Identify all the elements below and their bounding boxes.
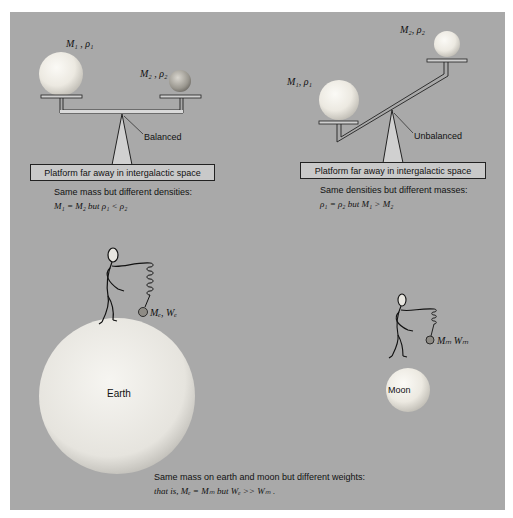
fulcrum-right <box>383 110 403 163</box>
mass-earth <box>139 308 148 317</box>
label-moon-weight: Mₘ Wₘ <box>437 335 468 346</box>
label-m2-left: M₂ , ρ₂ <box>140 68 168 79</box>
stick-figure-moon <box>389 294 434 358</box>
pointer-label-unbalanced: Unbalanced <box>414 131 462 141</box>
platform-right: Platform far away in intergalactic space <box>300 162 486 179</box>
mass-moon <box>426 336 434 344</box>
label-m1-left: M₁ , ρ₁ <box>66 38 94 49</box>
left-balance <box>39 52 201 165</box>
label-moon: Moon <box>388 385 411 395</box>
spring-moon <box>431 309 436 336</box>
label-m2-right: M₂, ρ₂ <box>400 24 425 35</box>
label-earth-weight: Mₑ, Wₑ <box>150 307 177 318</box>
caption-left-line2: M₁ = M₂ but ρ₁ < ρ₂ <box>54 199 127 213</box>
sphere-m1-right <box>319 80 359 120</box>
bottom-caption-line2: that is, Mₑ = Mₘ but Wₑ >> Wₘ . <box>154 484 275 498</box>
diagram-graphics <box>0 0 513 518</box>
caption-right-line1: Same densities but different masses: <box>320 183 467 197</box>
spring-earth <box>145 263 153 307</box>
bottom-caption-line1: Same mass on earth and moon but differen… <box>154 470 365 484</box>
label-m1-right: M₁, ρ₁ <box>287 76 312 87</box>
fulcrum-left <box>112 114 132 165</box>
earth-scene <box>39 248 195 474</box>
right-balance <box>319 31 467 163</box>
left-pan-1 <box>41 95 82 98</box>
pointer-label-balanced: Balanced <box>144 132 182 142</box>
sphere-m2-right <box>434 31 460 57</box>
sphere-m2-left <box>169 70 191 92</box>
right-pan-1 <box>319 121 358 124</box>
caption-right-line2: ρ₁ = ρ₂ but M₁ > M₂ <box>320 197 393 211</box>
sphere-m1-left <box>39 52 83 96</box>
right-pan-2 <box>427 59 467 62</box>
caption-left-line1: Same mass but different densities: <box>54 185 192 199</box>
label-earth: Earth <box>107 388 131 399</box>
left-pan-2 <box>160 95 201 98</box>
platform-left: Platform far away in intergalactic space <box>30 164 215 181</box>
